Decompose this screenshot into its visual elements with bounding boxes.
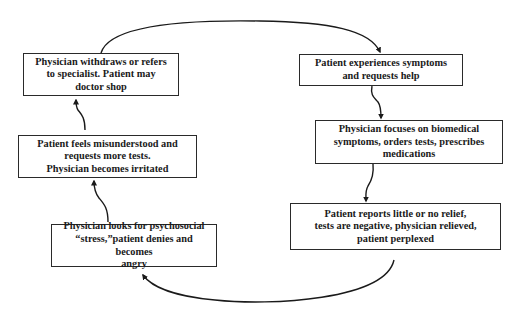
- node-label: Patient experiences symptoms and request…: [315, 57, 447, 82]
- node-label: Patient reports little or no relief, tes…: [314, 208, 476, 246]
- node-physician-looks: Physician looks for psychosocial “stress…: [51, 224, 217, 267]
- arrow-experiences-to-focuses: [372, 86, 381, 118]
- arrow-withdraws-to-experiences: [101, 21, 380, 53]
- node-label: Patient feels misunderstood and requests…: [37, 138, 177, 176]
- node-patient-reports: Patient reports little or no relief, tes…: [290, 203, 501, 250]
- arrow-focuses-to-reports: [366, 164, 373, 201]
- node-label: Physician focuses on biomedical symptoms…: [334, 123, 485, 161]
- node-physician-focuses: Physician focuses on biomedical symptoms…: [315, 120, 503, 164]
- arrow-feels-to-withdraws: [76, 100, 85, 130]
- node-label: Physician looks for psychosocial “stress…: [56, 220, 212, 270]
- node-physician-withdraws: Physician withdraws or refers to special…: [23, 53, 179, 96]
- node-label: Physician withdraws or refers to special…: [35, 56, 166, 94]
- node-patient-experiences: Patient experiences symptoms and request…: [299, 54, 463, 86]
- node-patient-feels: Patient feels misunderstood and requests…: [18, 135, 197, 178]
- arrow-looks-to-feels: [94, 181, 108, 222]
